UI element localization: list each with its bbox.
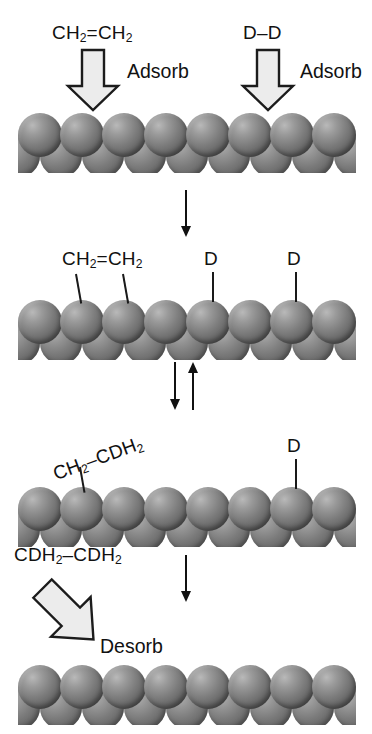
intermediate-deuterium-label: D	[287, 435, 301, 457]
transition-arrow-1	[176, 190, 196, 238]
stage-3-intermediate: CH2–CDH2 D	[0, 415, 372, 540]
adsorbed-deuterium-label-left: D	[204, 248, 218, 270]
product-formula-label: CDH2–CDH2	[14, 544, 122, 567]
equilibrium-arrow-up	[186, 362, 200, 410]
equilibrium-arrow-down	[168, 362, 182, 410]
metal-atom-front	[312, 487, 356, 531]
metal-atom-front	[312, 300, 356, 344]
metal-atom-front	[186, 665, 230, 709]
deuterium-molecule-label: D–D	[243, 22, 282, 44]
metal-atom-front	[18, 300, 62, 344]
metal-atom-front	[270, 113, 314, 157]
transition-arrow-2-equilibrium	[168, 362, 202, 410]
metal-atom-front	[60, 300, 104, 344]
catalyst-surface-4	[18, 665, 356, 725]
metal-atom-front	[228, 113, 272, 157]
metal-atom-front	[312, 665, 356, 709]
metal-atom-front	[18, 113, 62, 157]
metal-atom-front	[186, 113, 230, 157]
catalyst-surface-1	[18, 113, 356, 173]
desorb-label: Desorb	[100, 635, 163, 658]
metal-atom-front	[102, 665, 146, 709]
metal-atom-front	[144, 300, 188, 344]
metal-atom-front	[270, 665, 314, 709]
metal-atom-front	[102, 487, 146, 531]
stage-1-adsorption: CH2=CH2 D–D Adsorb Adsorb	[0, 0, 372, 180]
adsorb-label-right: Adsorb	[300, 60, 362, 83]
metal-atom-front	[144, 665, 188, 709]
adsorb-arrow-left	[64, 48, 122, 112]
adsorb-label-left: Adsorb	[127, 60, 189, 83]
catalyst-surface-3	[18, 487, 356, 547]
metal-atom-front	[60, 665, 104, 709]
stage-4-desorption: CDH2–CDH2 Desorb	[0, 540, 372, 734]
bond-line-deuterium-left	[212, 272, 214, 302]
adsorbed-ethylene-label: CH2=CH2	[62, 248, 143, 271]
bond-line-deuterium	[295, 459, 297, 489]
metal-atom-front	[312, 113, 356, 157]
metal-atom-front	[60, 487, 104, 531]
metal-atom-front	[228, 487, 272, 531]
stage-2-adsorbed-species: CH2=CH2 D D	[0, 248, 372, 373]
metal-atom-front	[18, 487, 62, 531]
metal-atom-front	[144, 487, 188, 531]
metal-atom-front	[186, 487, 230, 531]
metal-atom-front	[228, 665, 272, 709]
metal-atom-front	[186, 300, 230, 344]
catalyst-surface-2	[18, 300, 356, 360]
metal-atom-front	[102, 300, 146, 344]
metal-atom-front	[270, 487, 314, 531]
half-hydrogenated-intermediate-label: CH2–CDH2	[50, 432, 146, 486]
metal-atom-front	[228, 300, 272, 344]
metal-atom-front	[270, 300, 314, 344]
metal-atom-front	[18, 665, 62, 709]
reaction-mechanism-diagram: CH2=CH2 D–D Adsorb Adsorb CH2=CH2	[0, 0, 372, 734]
ethylene-formula-label: CH2=CH2	[52, 22, 133, 45]
metal-atom-front	[102, 113, 146, 157]
metal-atom-front	[60, 113, 104, 157]
desorb-arrow	[26, 572, 110, 656]
bond-line-deuterium-right	[295, 272, 297, 302]
metal-atom-front	[144, 113, 188, 157]
adsorb-arrow-right	[239, 48, 297, 112]
adsorbed-deuterium-label-right: D	[287, 248, 301, 270]
